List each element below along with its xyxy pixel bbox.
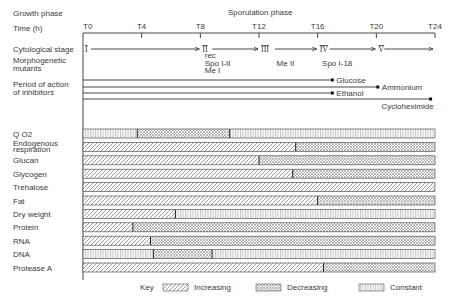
mutant-label: Me I [205, 66, 221, 75]
legend-swatch-decreasing [256, 284, 281, 291]
legend-label-constant: Constant [390, 283, 423, 292]
tick-label-t12: T12 [252, 22, 266, 31]
tick-label-t0: T0 [83, 22, 93, 31]
inhibitor-label-ammonium: Ammonium [382, 83, 423, 92]
bar-segment-decreasing [150, 236, 435, 245]
row-label: Fat [13, 197, 25, 206]
time-axis-label: Time (h) [13, 24, 43, 33]
bar-segment-increasing [83, 156, 259, 165]
inhibitor-endpoint-glucose [331, 79, 334, 82]
tick-label-t20: T20 [369, 22, 383, 31]
inhibitor-label-glucose: Glucose [336, 76, 366, 85]
stage-III: III [261, 45, 269, 54]
parameter-row: Protein [13, 223, 435, 233]
row-label: Trehalose [13, 183, 49, 192]
stage-V: V [378, 45, 384, 54]
inhibitor-label-ethanol: Ethanol [336, 89, 363, 98]
parameter-row: Protease A [13, 263, 435, 273]
parameter-row: Trehalose [13, 183, 435, 193]
row-label: Q O2 [13, 130, 33, 139]
bar-segment-decreasing [133, 223, 435, 232]
bar-segment-increasing [83, 169, 293, 178]
sporulation-timeline-diagram: Growth phase Sporulation phase Time (h) … [0, 0, 452, 302]
parameter-row: Dry weight [13, 209, 435, 219]
bar-segment-constant [175, 209, 435, 218]
tick-label-t8: T8 [196, 22, 206, 31]
bar-segment-increasing [83, 263, 324, 272]
bar-segment-increasing [83, 209, 175, 218]
mutants-label-line2: mutants [13, 64, 41, 73]
bar-segment-decreasing [137, 129, 229, 138]
bar-segment-constant [83, 250, 153, 259]
bar-segment-decreasing [293, 169, 435, 178]
bar-segment-constant [212, 250, 435, 259]
row-label: Glucan [13, 156, 38, 165]
row-label: respiration [13, 145, 50, 154]
row-label: Glycogen [13, 170, 47, 179]
bar-segment-increasing [83, 223, 133, 232]
growth-phase-label: Growth phase [13, 9, 63, 18]
bar-segment-decreasing [324, 263, 435, 272]
parameter-row: Glycogen [13, 169, 435, 179]
bar-segment-constant [230, 129, 435, 138]
tick-label-t24: T24 [428, 22, 442, 31]
bar-segment-increasing [83, 236, 150, 245]
inhibitor-endpoint-cycloheximide [429, 98, 432, 101]
legend-label-increasing: Increasing [194, 283, 231, 292]
sporulation-phase-label: Sporulation phase [228, 8, 293, 17]
parameter-row: Glucan [13, 156, 435, 166]
row-label: Dry weight [13, 210, 52, 219]
bar-segment-increasing [83, 183, 435, 192]
row-label: RNA [13, 237, 31, 246]
mutant-label: Me II [277, 59, 295, 68]
inhibitors-label-line2: of inhibitors [13, 88, 54, 97]
tick-label-t16: T16 [311, 22, 325, 31]
tick-label-t4: T4 [137, 22, 147, 31]
bar-segment-decreasing [153, 250, 212, 259]
bar-segment-decreasing [259, 156, 435, 165]
row-label: DNA [13, 250, 31, 259]
bar-segment-increasing [83, 196, 318, 205]
bar-segment-constant [83, 129, 137, 138]
inhibitor-label-cycloheximide: Cycloheximide [382, 102, 435, 111]
legend-title: Key [140, 283, 154, 292]
parameter-row: Endogenousrespiration [13, 139, 435, 154]
stage-I: I [85, 45, 88, 54]
inhibitor-endpoint-ethanol [331, 92, 334, 95]
row-label: Protease A [13, 264, 53, 273]
row-label: Protein [13, 223, 38, 232]
parameter-row: RNA [13, 236, 435, 246]
bar-segment-decreasing [318, 196, 435, 205]
parameter-row: DNA [13, 250, 435, 260]
parameter-row: Fat [13, 196, 435, 206]
mutant-label: Spo I-18 [322, 59, 353, 68]
stage-IV: IV [320, 45, 329, 54]
legend-label-decreasing: Decreasing [287, 283, 327, 292]
bar-segment-decreasing [296, 142, 435, 151]
bar-segment-increasing [83, 142, 296, 151]
inhibitor-endpoint-ammonium [376, 86, 379, 89]
legend-swatch-increasing [163, 284, 188, 291]
legend-swatch-constant [359, 284, 384, 291]
cytological-stage-label: Cytological stage [13, 45, 74, 54]
parameter-row: Q O2 [13, 129, 435, 139]
